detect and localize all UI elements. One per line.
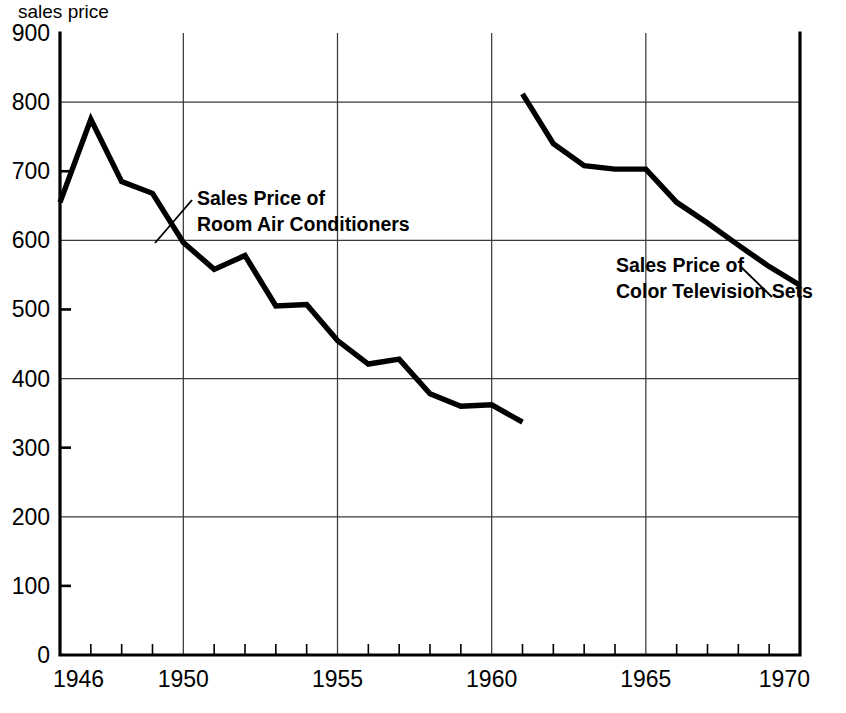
gridlines (60, 33, 800, 655)
chart-canvas: sales price 0100200300400500600700800900… (0, 0, 846, 713)
series-line-room-air-conditioners (60, 119, 523, 422)
y-tick-label: 800 (12, 89, 50, 115)
color-television-sets-annotation-line1: Sales Price of (616, 254, 744, 276)
y-axis-title: sales price (18, 1, 109, 22)
y-tick-label: 700 (12, 158, 50, 184)
y-axis-tick-labels: 0100200300400500600700800900 (12, 20, 50, 668)
x-axis-tick-labels: 194619501955196019651970 (53, 666, 810, 692)
x-tick-label: 1970 (759, 666, 810, 692)
room-air-conditioners-annotation-line2: Room Air Conditioners (197, 213, 410, 235)
y-tick-label: 400 (12, 366, 50, 392)
y-tick-label: 200 (12, 504, 50, 530)
x-tick-label: 1946 (53, 666, 104, 692)
y-tick-label: 100 (12, 573, 50, 599)
y-tick-label: 900 (12, 20, 50, 46)
series-annotations: Sales Price ofRoom Air ConditionersSales… (155, 187, 813, 302)
x-tick-label: 1960 (466, 666, 517, 692)
axis-ticks (60, 171, 800, 655)
y-tick-label: 600 (12, 227, 50, 253)
plot-frame (60, 33, 800, 655)
color-television-sets-annotation-line2: Color Television Sets (616, 280, 813, 302)
y-tick-label: 500 (12, 296, 50, 322)
room-air-conditioners-annotation-line1: Sales Price of (197, 187, 325, 209)
sales-price-line-chart: sales price 0100200300400500600700800900… (0, 0, 846, 713)
x-tick-label: 1955 (312, 666, 363, 692)
x-tick-label: 1965 (620, 666, 671, 692)
axis-frame (60, 33, 800, 655)
x-tick-label: 1950 (158, 666, 209, 692)
y-tick-label: 300 (12, 435, 50, 461)
y-tick-label: 0 (37, 642, 50, 668)
